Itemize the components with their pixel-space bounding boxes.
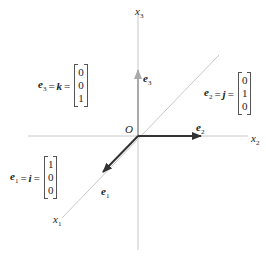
e3-label: e3 xyxy=(143,73,151,87)
e1-equation: e1 = i = 1 0 0 xyxy=(10,156,57,199)
origin-label: O xyxy=(125,124,133,135)
x1-axis-label: x1 xyxy=(53,214,61,228)
e1-arrow xyxy=(103,136,138,172)
x2-axis-label: x2 xyxy=(251,133,259,147)
e2-matrix: 0 1 0 xyxy=(238,72,252,115)
e2-label: e2 xyxy=(196,122,204,136)
e3-matrix: 0 0 1 xyxy=(74,64,88,107)
e1-label: e1 xyxy=(101,186,109,200)
e2-equation: e2 = j = 0 1 0 xyxy=(204,72,251,115)
coordinate-diagram xyxy=(0,0,266,258)
e1-matrix: 1 0 0 xyxy=(44,156,58,199)
x3-axis-label: x3 xyxy=(135,6,143,20)
e3-equation: e3 = k = 0 0 1 xyxy=(38,64,88,107)
